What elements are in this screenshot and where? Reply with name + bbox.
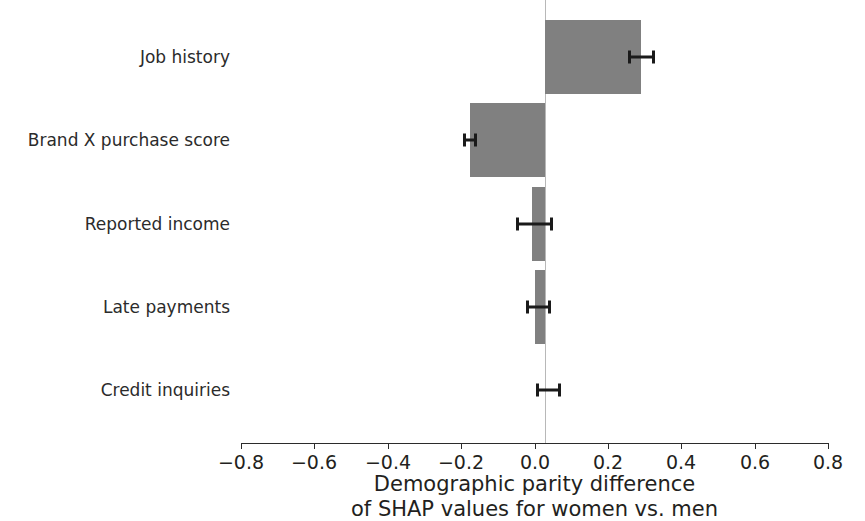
xtick-label: −0.8 — [218, 451, 264, 473]
x-axis-tick — [681, 443, 682, 449]
errorbar-cap-right-icon — [558, 384, 561, 397]
x-axis-tick — [461, 443, 462, 449]
ytick-label-brand-x-purchase-score: Brand X purchase score — [28, 132, 230, 149]
errorbar-cap-left-icon — [526, 301, 529, 314]
errorbar-job-history — [628, 56, 655, 59]
xtick-label: 0.2 — [593, 451, 623, 473]
bar-brand-x-purchase-score — [470, 103, 545, 177]
xtick-label: −0.6 — [291, 451, 337, 473]
x-axis-tick — [314, 443, 315, 449]
errorbar-cap-left-icon — [463, 134, 466, 147]
xtick-label: 0.4 — [666, 451, 696, 473]
x-axis-tick — [388, 443, 389, 449]
ytick-label-job-history: Job history — [140, 49, 230, 66]
xtick-label: 0.8 — [813, 451, 843, 473]
x-axis-tick — [755, 443, 756, 449]
errorbar-cap-right-icon — [474, 134, 477, 147]
x-axis-tick — [241, 443, 242, 449]
errorbar-brand-x-purchase-score — [463, 139, 477, 142]
x-axis-tick — [535, 443, 536, 449]
ytick-label-reported-income: Reported income — [85, 216, 230, 233]
xtick-label: 0.0 — [520, 451, 550, 473]
errorbar-cap-left-icon — [516, 218, 519, 231]
x-axis-title-line-1: Demographic parity difference — [241, 472, 828, 497]
errorbar-reported-income — [516, 223, 553, 226]
xtick-label: 0.6 — [740, 451, 770, 473]
xtick-label: −0.4 — [365, 451, 411, 473]
errorbar-cap-left-icon — [628, 51, 631, 64]
plot-area — [241, 0, 828, 443]
bar-chart-figure: Job history Brand X purchase score Repor… — [0, 0, 865, 521]
x-axis-tick — [828, 443, 829, 449]
errorbar-credit-inquiries — [536, 389, 561, 392]
errorbar-late-payments — [526, 306, 551, 309]
x-axis-tick — [608, 443, 609, 449]
errorbar-cap-right-icon — [652, 51, 655, 64]
x-axis-title: Demographic parity difference of SHAP va… — [241, 472, 828, 521]
bar-job-history — [545, 20, 641, 94]
x-axis-title-line-2: of SHAP values for women vs. men — [241, 497, 828, 521]
errorbar-cap-right-icon — [548, 301, 551, 314]
ytick-label-credit-inquiries: Credit inquiries — [101, 382, 230, 399]
errorbar-cap-right-icon — [550, 218, 553, 231]
errorbar-cap-left-icon — [536, 384, 539, 397]
ytick-label-late-payments: Late payments — [103, 299, 230, 316]
x-axis: −0.8 −0.6 −0.4 −0.2 0.0 0.2 0.4 0.6 0.8 — [241, 443, 828, 444]
xtick-label: −0.2 — [438, 451, 484, 473]
